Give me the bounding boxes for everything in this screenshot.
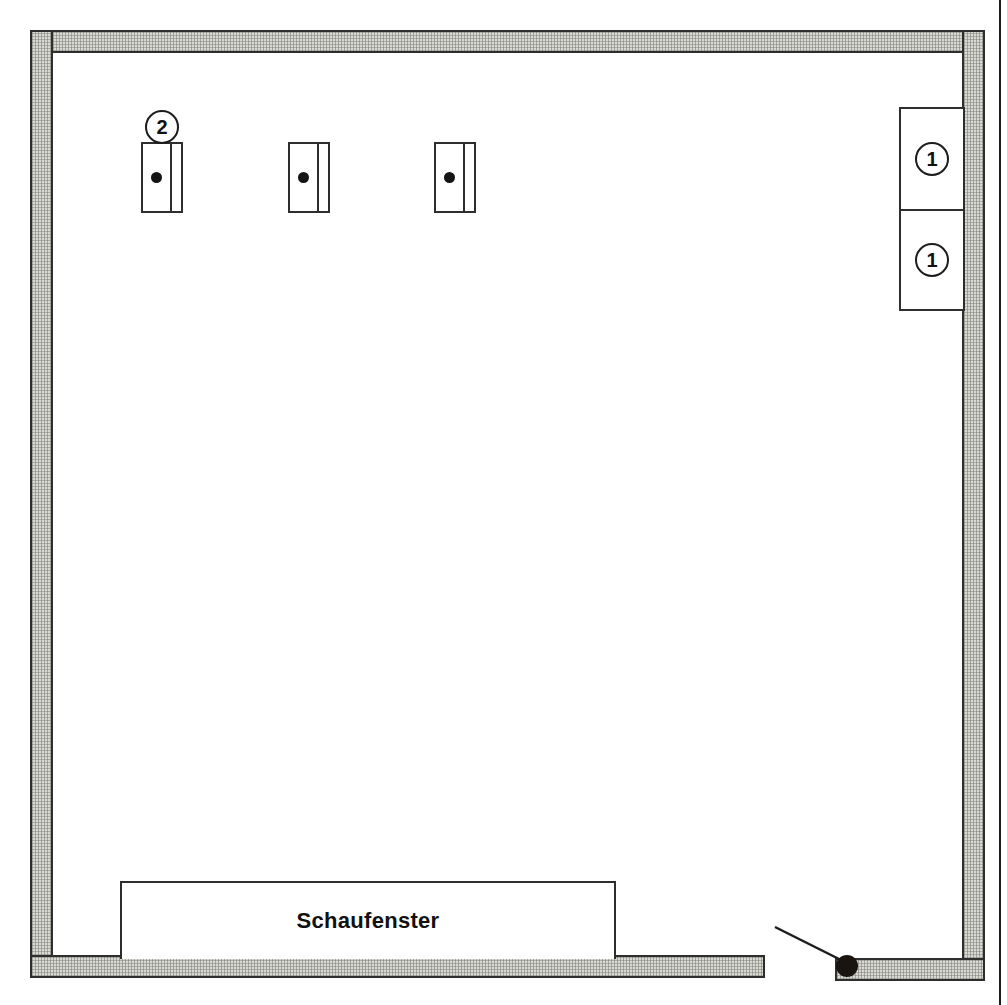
- fixture-node-icon: [298, 172, 309, 183]
- floor-plan-drawing: 2 1 1 Schaufenster: [0, 0, 1007, 1005]
- shop-window-label: Schaufenster: [297, 908, 440, 934]
- fixture-unit-3[interactable]: [434, 142, 476, 213]
- entry-point-marker-icon[interactable]: [836, 955, 858, 977]
- fixture-node-icon: [444, 172, 455, 183]
- fixture-unit-1[interactable]: [141, 142, 183, 213]
- callout-marker-1-lower[interactable]: 1: [915, 243, 949, 277]
- shop-window-area[interactable]: Schaufenster: [120, 881, 616, 959]
- fixture-node-icon: [151, 172, 162, 183]
- callout-marker-2-label: 2: [156, 116, 167, 139]
- wall-top: [30, 30, 985, 53]
- callout-marker-1-upper-label: 1: [926, 148, 937, 171]
- wall-left: [30, 30, 53, 978]
- callout-marker-2[interactable]: 2: [145, 110, 179, 144]
- fixture-unit-2[interactable]: [288, 142, 330, 213]
- fixture-divider-icon: [170, 144, 172, 211]
- wall-right: [962, 30, 985, 978]
- interior-floor-area: [53, 53, 962, 955]
- fixture-divider-icon: [463, 144, 465, 211]
- fixture-divider-icon: [317, 144, 319, 211]
- callout-marker-1-upper[interactable]: 1: [915, 142, 949, 176]
- wall-bottom-right: [835, 958, 985, 981]
- callout-marker-1-lower-label: 1: [926, 249, 937, 272]
- page-border-right: [999, 0, 1001, 1005]
